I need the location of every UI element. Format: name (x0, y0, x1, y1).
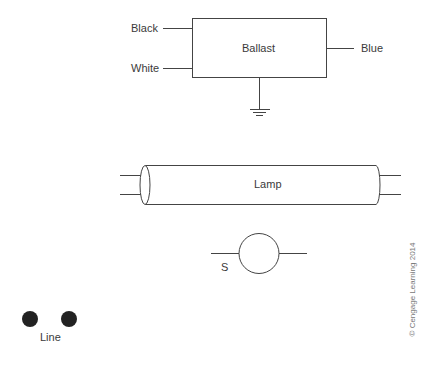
switch-label: S (221, 262, 228, 273)
line-terminal-1 (22, 311, 38, 327)
lamp-label: Lamp (254, 179, 282, 190)
line-label: Line (40, 332, 61, 343)
black-label: Black (131, 23, 158, 34)
ballast-label: Ballast (242, 43, 275, 54)
ground-icon (250, 78, 270, 116)
copyright-text: © Cengage Learning 2014 (408, 242, 417, 338)
blue-label: Blue (361, 43, 383, 54)
line-terminal-2 (61, 311, 77, 327)
wiring-diagram (0, 0, 429, 365)
white-label: White (131, 63, 159, 74)
